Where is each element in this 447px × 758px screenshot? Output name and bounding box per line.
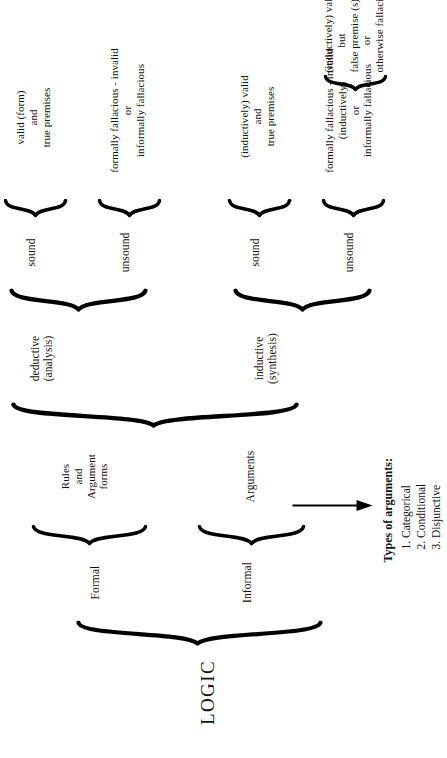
node-arguments: Arguments: [243, 430, 256, 522]
brace-leaf-3: [226, 198, 292, 218]
node-sound-deductive: sound: [24, 216, 37, 288]
node-sound-inductive: sound: [248, 216, 261, 288]
brace-leaf-4: [320, 198, 386, 218]
node-formal-detail: Rules and Argument forms: [58, 430, 109, 522]
node-unsound-deductive: unsound: [118, 216, 131, 288]
node-logic: LOGIC: [196, 644, 218, 740]
leaf-sound-deductive: valid (form) and true premises: [13, 38, 51, 196]
types-item: 3. Disjunctive: [428, 412, 443, 549]
leaf-sound-inductive: (inductively) valid and true premises: [237, 36, 275, 196]
types-item: 2. Conditional: [413, 412, 428, 549]
brace-leaf-extra: [322, 74, 388, 92]
types-of-arguments-panel: Types of arguments: 1. Categorical 2. Co…: [380, 412, 443, 562]
types-item: 1. Categorical: [398, 412, 413, 549]
types-heading: Types of arguments:: [380, 412, 395, 562]
node-inductive: inductive (synthesis): [252, 312, 279, 404]
brace-leaf-2: [96, 198, 162, 218]
brace-logic-split: [74, 620, 324, 646]
types-list: 1. Categorical 2. Conditional 3. Disjunc…: [398, 412, 442, 562]
brace-deductive-split: [8, 288, 148, 312]
node-unsound-inductive: unsound: [342, 216, 355, 288]
brace-arguments-split: [10, 402, 300, 428]
brace-informal-detail: [196, 524, 306, 546]
node-deductive: deductive (analysis): [28, 312, 55, 404]
diagram-page: LOGIC Formal Informal Rules and Argument…: [0, 0, 447, 758]
leaf-unsound-deductive: formally fallacious - invalid or informa…: [107, 24, 145, 196]
brace-leaf-1: [2, 198, 68, 218]
brace-formal-detail: [30, 524, 148, 546]
node-formal: Formal: [88, 546, 101, 618]
logic-tree-canvas: LOGIC Formal Informal Rules and Argument…: [0, 0, 447, 758]
leaf-extra-false-premise: (inductively) valid but false premise (s…: [321, 8, 385, 72]
node-informal: Informal: [240, 546, 253, 618]
arrow-to-types: [290, 496, 374, 514]
brace-inductive-split: [232, 288, 372, 312]
